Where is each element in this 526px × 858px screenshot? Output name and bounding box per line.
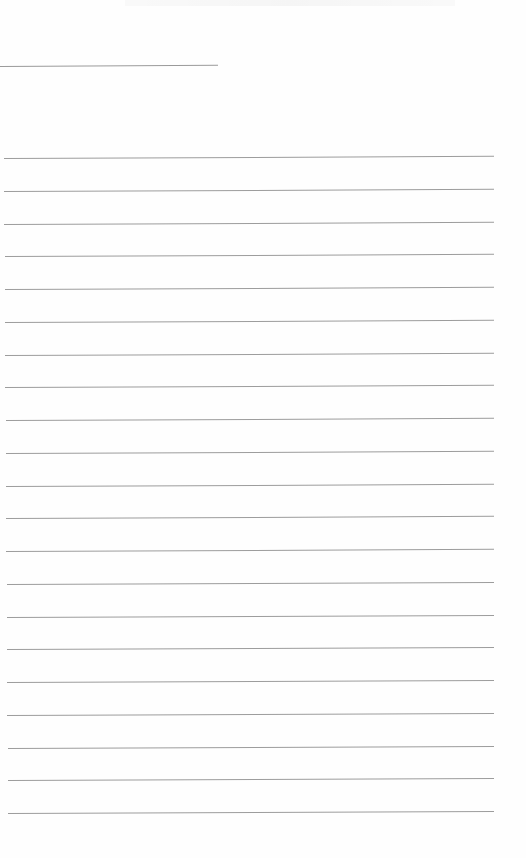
ruled-line: [4, 156, 494, 159]
ruled-line: [8, 811, 494, 814]
ruled-line: [6, 549, 494, 552]
ruled-line: [6, 418, 494, 421]
ruled-line: [7, 582, 494, 585]
ruled-line: [8, 778, 494, 781]
ruled-line: [7, 647, 494, 650]
ruled-line: [5, 254, 494, 257]
header-name-line: [0, 65, 218, 67]
ruled-line: [5, 287, 494, 290]
faint-bleed-through-text: [125, 0, 455, 6]
ruled-line: [6, 516, 494, 519]
ruled-line: [5, 320, 494, 323]
ruled-line: [6, 451, 494, 454]
ruled-line: [7, 615, 494, 618]
ruled-line: [4, 189, 494, 192]
ruled-line: [8, 746, 494, 749]
ruled-line: [7, 713, 494, 716]
ruled-line: [6, 484, 494, 487]
ruled-line: [5, 353, 494, 356]
lined-paper-page: [0, 0, 526, 858]
ruled-line: [7, 680, 494, 683]
ruled-line: [5, 385, 494, 388]
ruled-line: [4, 222, 494, 225]
